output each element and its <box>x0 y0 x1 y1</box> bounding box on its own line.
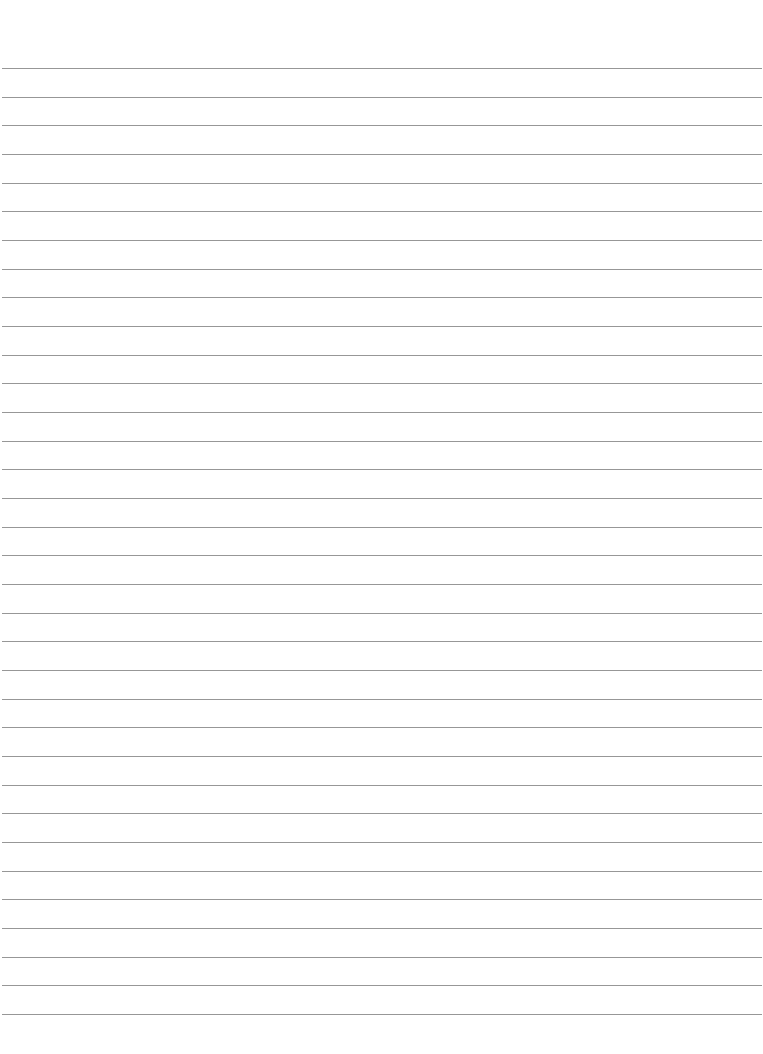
ruled-line <box>2 297 762 298</box>
ruled-line <box>2 957 762 958</box>
ruled-line <box>2 928 762 929</box>
ruled-line <box>2 97 762 98</box>
ruled-line <box>2 211 762 212</box>
ruled-line <box>2 555 762 556</box>
ruled-line <box>2 1014 762 1015</box>
ruled-line <box>2 498 762 499</box>
lined-paper-sheet <box>0 0 763 1054</box>
ruled-line <box>2 326 762 327</box>
ruled-line <box>2 699 762 700</box>
ruled-line <box>2 269 762 270</box>
ruled-line <box>2 240 762 241</box>
ruled-line <box>2 154 762 155</box>
ruled-line <box>2 871 762 872</box>
ruled-line <box>2 125 762 126</box>
ruled-line <box>2 785 762 786</box>
ruled-line <box>2 68 762 69</box>
ruled-line <box>2 813 762 814</box>
ruled-line <box>2 183 762 184</box>
ruled-line <box>2 584 762 585</box>
ruled-line <box>2 670 762 671</box>
ruled-line <box>2 383 762 384</box>
ruled-line <box>2 412 762 413</box>
ruled-line <box>2 842 762 843</box>
ruled-line <box>2 756 762 757</box>
ruled-line <box>2 641 762 642</box>
ruled-line <box>2 899 762 900</box>
ruled-line <box>2 355 762 356</box>
ruled-line <box>2 613 762 614</box>
ruled-line <box>2 727 762 728</box>
ruled-line <box>2 527 762 528</box>
ruled-line <box>2 985 762 986</box>
ruled-line <box>2 441 762 442</box>
ruled-line <box>2 469 762 470</box>
